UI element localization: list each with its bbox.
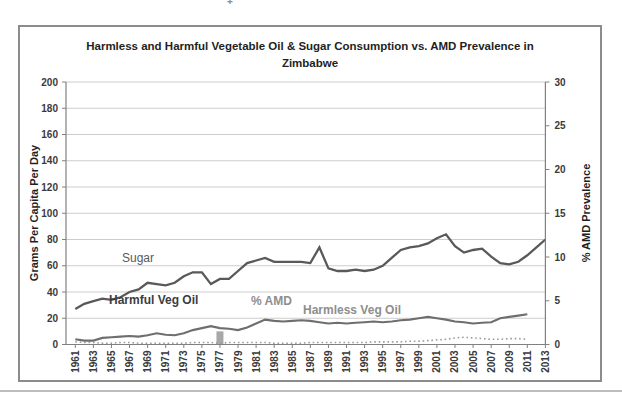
svg-text:100: 100	[41, 208, 58, 219]
svg-text:5: 5	[554, 295, 560, 306]
svg-text:1963: 1963	[88, 350, 99, 373]
svg-text:1971: 1971	[160, 350, 171, 373]
amd-series-label: % AMD	[251, 294, 292, 308]
svg-text:20: 20	[47, 313, 59, 324]
chart-title-line-2: Zimbabwe	[20, 55, 600, 72]
svg-text:180: 180	[41, 103, 58, 114]
svg-text:1997: 1997	[395, 350, 406, 373]
svg-text:2007: 2007	[486, 350, 497, 373]
svg-text:200: 200	[41, 77, 58, 88]
chart-svg: 0204060801001201401601802000510152025301…	[20, 27, 600, 380]
svg-text:2013: 2013	[540, 350, 551, 373]
svg-text:1965: 1965	[106, 350, 117, 373]
svg-text:1975: 1975	[196, 350, 207, 373]
harmless-veg-oil-series-line	[75, 337, 527, 343]
svg-text:1981: 1981	[251, 350, 262, 373]
sugar-series-label: Sugar	[122, 251, 154, 265]
page: + 02040608010012014016018020005101520253…	[0, 0, 622, 411]
left-axis-title: Grams Per Capita Per Day	[28, 145, 40, 281]
svg-text:25: 25	[554, 120, 566, 131]
svg-text:1979: 1979	[233, 350, 244, 373]
svg-text:2011: 2011	[522, 350, 533, 372]
svg-text:1995: 1995	[377, 350, 388, 373]
svg-text:1961: 1961	[70, 350, 81, 373]
svg-text:0: 0	[52, 339, 58, 350]
svg-text:0: 0	[554, 339, 560, 350]
svg-text:30: 30	[554, 77, 566, 88]
chart-title: Harmless and Harmful Vegetable Oil & Sug…	[20, 38, 600, 72]
svg-text:160: 160	[41, 129, 58, 140]
chart-title-line-1: Harmless and Harmful Vegetable Oil & Sug…	[20, 38, 600, 55]
svg-text:1993: 1993	[359, 350, 370, 373]
svg-text:40: 40	[47, 287, 59, 298]
svg-text:1985: 1985	[287, 350, 298, 373]
svg-text:10: 10	[554, 252, 566, 263]
svg-text:1973: 1973	[178, 350, 189, 373]
svg-text:1987: 1987	[305, 350, 316, 373]
gridlines	[66, 82, 545, 318]
harmful-veg-oil-series-label: Harmful Veg Oil	[109, 293, 198, 307]
svg-text:1991: 1991	[341, 350, 352, 373]
svg-text:20: 20	[554, 164, 566, 175]
svg-text:80: 80	[47, 234, 59, 245]
svg-text:1967: 1967	[124, 350, 135, 373]
svg-text:2009: 2009	[504, 350, 515, 373]
svg-text:2005: 2005	[468, 350, 479, 373]
axis-tick-labels: 0204060801001201401601802000510152025301…	[41, 77, 566, 373]
page-bottom-rule	[0, 390, 622, 392]
svg-text:120: 120	[41, 182, 58, 193]
svg-text:60: 60	[47, 260, 59, 271]
svg-text:140: 140	[41, 155, 58, 166]
harmless-veg-oil-series-label: Harmless Veg Oil	[303, 303, 401, 317]
svg-text:1999: 1999	[413, 350, 424, 373]
svg-text:2003: 2003	[449, 350, 460, 373]
svg-text:2001: 2001	[431, 350, 442, 373]
chart: 0204060801001201401601802000510152025301…	[18, 25, 602, 382]
svg-text:1969: 1969	[142, 350, 153, 373]
right-axis-title: % AMD Prevalence	[580, 164, 592, 263]
svg-text:1977: 1977	[214, 350, 225, 373]
svg-text:1989: 1989	[323, 350, 334, 373]
svg-text:15: 15	[554, 208, 566, 219]
scan-artifact-mark: +	[227, 0, 233, 7]
svg-text:1983: 1983	[269, 350, 280, 373]
